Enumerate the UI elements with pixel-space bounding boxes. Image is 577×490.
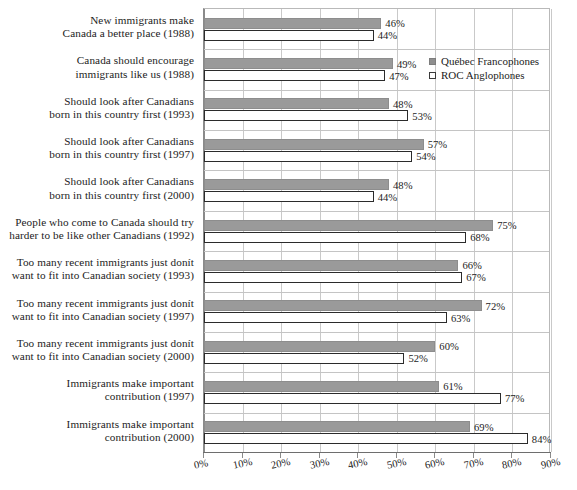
bar-value-label: 57% — [424, 139, 447, 150]
category-axis: New immigrants makeCanada a better place… — [0, 8, 200, 452]
chart-legend: Québec FrancophonesROC Anglophones — [429, 55, 539, 82]
bar-row: 60% — [204, 341, 551, 352]
bar-row: 44% — [204, 191, 551, 202]
category-label-line: Canada a better place (1988) — [0, 27, 194, 40]
bar-row: 44% — [204, 30, 551, 41]
category-label: Too many recent immigrants just donítwan… — [0, 337, 194, 363]
group-separator — [204, 49, 549, 50]
group-separator — [204, 170, 549, 171]
bar-value-label: 48% — [389, 179, 412, 190]
bar-quebec — [204, 260, 458, 271]
x-tick-label: 60% — [424, 456, 445, 471]
group-separator — [204, 90, 549, 91]
bar-value-label: 53% — [408, 110, 431, 121]
bar-row: 52% — [204, 353, 551, 364]
bar-roc — [204, 232, 466, 243]
category-label: Too many recent immigrants just donítwan… — [0, 256, 194, 282]
x-tick-label: 30% — [309, 456, 330, 471]
bar-row: 61% — [204, 381, 551, 392]
bar-value-label: 47% — [385, 70, 408, 81]
category-label-line: contribution (1997) — [0, 390, 194, 403]
bar-row: 48% — [204, 179, 551, 190]
category-label-line: born in this country first (1997) — [0, 148, 194, 161]
category-label-line: immigrants like us (1988) — [0, 68, 194, 81]
bar-value-label: 44% — [374, 191, 397, 202]
x-tick-label: 0% — [193, 457, 209, 471]
legend-swatch-icon — [429, 72, 436, 79]
bar-roc — [204, 353, 404, 364]
x-tick-label: 80% — [501, 456, 522, 471]
category-label-line: Should look after Canadians — [0, 175, 194, 188]
bar-row: 46% — [204, 18, 551, 29]
bar-value-label: 67% — [462, 272, 485, 283]
category-label-line: Immigrants make important — [0, 377, 194, 390]
category-label-line: Too many recent immigrants just donít — [0, 297, 194, 310]
bar-quebec — [204, 179, 389, 190]
bar-row: 53% — [204, 110, 551, 121]
bar-value-label: 77% — [501, 393, 524, 404]
legend-label: Québec Francophones — [441, 55, 539, 69]
bar-row: 68% — [204, 232, 551, 243]
x-axis-line — [203, 452, 551, 453]
x-tick-label: 90% — [540, 456, 561, 471]
x-tick-label: 50% — [386, 456, 407, 471]
bar-value-label: 63% — [447, 312, 470, 323]
legend-swatch-icon — [429, 58, 436, 65]
group-separator — [204, 372, 549, 373]
bar-row: 57% — [204, 139, 551, 150]
bar-quebec — [204, 58, 393, 69]
bar-roc — [204, 272, 462, 283]
bar-value-label: 60% — [435, 341, 458, 352]
category-label: Should look after Canadiansborn in this … — [0, 95, 194, 121]
bar-quebec — [204, 220, 493, 231]
bar-value-label: 46% — [381, 18, 404, 29]
bar-value-label: 66% — [458, 260, 481, 271]
bar-value-label: 69% — [470, 421, 493, 432]
legend-label: ROC Anglophones — [441, 69, 524, 83]
bar-roc — [204, 110, 408, 121]
bar-value-label: 84% — [528, 433, 551, 444]
category-label-line: contribution (2000) — [0, 431, 194, 444]
bar-quebec — [204, 18, 381, 29]
bar-value-label: 72% — [482, 300, 505, 311]
bar-roc — [204, 151, 412, 162]
category-label: People who come to Canada should tryhard… — [0, 216, 194, 242]
bar-row: 54% — [204, 151, 551, 162]
category-label-line: Too many recent immigrants just donít — [0, 337, 194, 350]
legend-item-quebec-francophones[interactable]: Québec Francophones — [429, 55, 539, 69]
bar-row: 66% — [204, 260, 551, 271]
bar-quebec — [204, 341, 435, 352]
bar-roc — [204, 70, 385, 81]
category-label-line: harder to be like other Canadians (1992) — [0, 229, 194, 242]
bar-quebec — [204, 421, 470, 432]
group-separator — [204, 292, 549, 293]
gridline-90% — [551, 9, 552, 452]
bar-quebec — [204, 139, 424, 150]
category-label-line: People who come to Canada should try — [0, 216, 194, 229]
bar-quebec — [204, 300, 482, 311]
bar-row: 48% — [204, 98, 551, 109]
bar-row: 75% — [204, 220, 551, 231]
category-label-line: Immigrants make important — [0, 418, 194, 431]
category-label: Too many recent immigrants just donítwan… — [0, 297, 194, 323]
bar-quebec — [204, 381, 439, 392]
x-tick-label: 70% — [463, 456, 484, 471]
category-label-line: Should look after Canadians — [0, 95, 194, 108]
category-label: Should look after Canadiansborn in this … — [0, 175, 194, 201]
category-label: Should look after Canadiansborn in this … — [0, 135, 194, 161]
bar-value-label: 52% — [404, 353, 427, 364]
category-label-line: New immigrants make — [0, 14, 194, 27]
group-separator — [204, 130, 549, 131]
legend-item-roc-anglophones[interactable]: ROC Anglophones — [429, 69, 539, 83]
bar-value-label: 68% — [466, 232, 489, 243]
group-separator — [204, 413, 549, 414]
bar-row: 84% — [204, 433, 551, 444]
x-tick-label: 40% — [347, 456, 368, 471]
bar-row: 69% — [204, 421, 551, 432]
group-separator — [204, 332, 549, 333]
x-tick-label: 10% — [232, 456, 253, 471]
bar-value-label: 44% — [374, 30, 397, 41]
category-label: Canada should encourageimmigrants like u… — [0, 54, 194, 80]
bar-row: 63% — [204, 312, 551, 323]
category-label-line: want to fit into Canadian society (1997) — [0, 310, 194, 323]
